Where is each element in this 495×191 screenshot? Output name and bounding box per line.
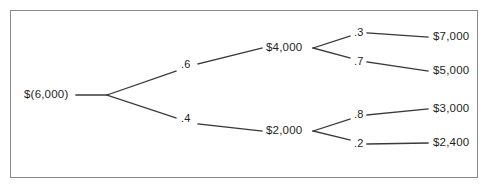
edge-root-to-n1-a [107,71,176,95]
probability-label-leaf-1: .3 [354,26,364,38]
leaf-4-label: $2,400 [433,136,469,148]
probability-label-branch-2: .4 [181,112,191,124]
probability-label-leaf-3: .8 [354,108,364,120]
leaf-3-label: $3,000 [433,102,469,114]
edge-root-to-n2-b [198,124,262,131]
probability-label-leaf-4: .2 [354,137,364,149]
edge-n1-to-leaf2-a [313,48,350,58]
leaf-2-label: $5,000 [433,64,469,76]
node-n2-label: $2,000 [266,124,302,136]
node-root-label: $(6,000) [24,88,68,100]
edge-n2-to-leaf4-b [367,143,428,144]
edge-root-to-n1-b [198,48,262,64]
edge-n1-to-leaf1-b [367,33,428,37]
decision-tree-figure: $(6,000) .6 .4 $4,000 $2,000 .3 .7 .8 .2… [0,0,495,191]
edge-n1-to-leaf2-b [367,62,428,71]
edge-n1-to-leaf1-a [313,36,350,48]
edge-n2-to-leaf4-a [313,131,350,140]
probability-label-branch-1: .6 [181,58,191,70]
leaf-1-label: $7,000 [433,30,469,42]
edge-n2-to-leaf3-b [367,109,428,115]
probability-label-leaf-2: .7 [354,55,364,67]
node-n1-label: $4,000 [266,41,302,53]
edge-n2-to-leaf3-a [313,119,350,131]
edge-root-to-n2-a [107,95,176,118]
tree-branch-lines [0,0,495,191]
